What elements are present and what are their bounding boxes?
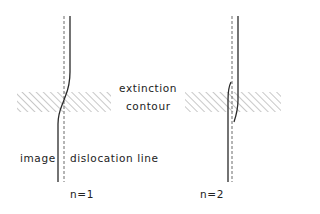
label-image: image — [20, 152, 56, 164]
label-n2: n=2 — [200, 188, 224, 200]
label-n1: n=1 — [70, 188, 94, 200]
label-contour: contour — [126, 100, 171, 112]
label-extinction: extinction — [119, 82, 177, 94]
extinction-contour-band-right — [185, 92, 281, 112]
panel-n2 — [185, 16, 281, 182]
label-dislocation-line: dislocation line — [70, 152, 159, 164]
